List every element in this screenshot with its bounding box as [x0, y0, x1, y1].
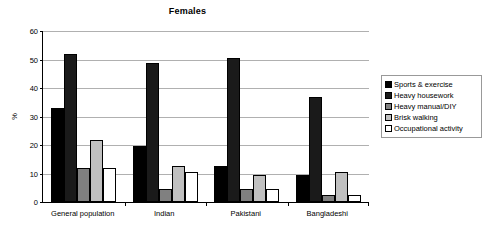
- legend-swatch-icon: [385, 103, 392, 110]
- bar: [227, 58, 240, 202]
- x-axis-tick: [125, 202, 126, 206]
- bar-group: [206, 31, 288, 202]
- bar: [185, 172, 198, 202]
- bar: [51, 108, 64, 202]
- bar: [309, 97, 322, 202]
- bar: [266, 189, 279, 202]
- y-axis-tick-label: 60: [30, 27, 38, 36]
- legend-item-label: Brisk walking: [394, 113, 438, 122]
- plot-area: 6050403020100: [42, 31, 369, 203]
- bar: [103, 168, 116, 202]
- bar: [240, 189, 253, 202]
- bar: [172, 166, 185, 202]
- legend-swatch-icon: [385, 114, 392, 121]
- x-axis-label: Pakistani: [231, 209, 261, 218]
- x-axis-label: Bangladeshi: [307, 209, 348, 218]
- bar: [348, 195, 361, 202]
- y-axis-tick-label: 10: [30, 169, 38, 178]
- x-axis-label: Indian: [154, 209, 174, 218]
- bar: [90, 140, 103, 202]
- page-title: Females: [0, 6, 375, 16]
- x-axis-tick: [288, 202, 289, 206]
- y-axis-tick: [40, 202, 43, 203]
- bar: [146, 63, 159, 202]
- y-axis-tick-label: 20: [30, 141, 38, 150]
- bar-group: [43, 31, 125, 202]
- x-axis-tick: [206, 202, 207, 206]
- y-axis-tick-label: 50: [30, 55, 38, 64]
- legend-item-label: Heavy manual/DIY: [394, 102, 457, 111]
- legend-item-label: Heavy housework: [394, 91, 454, 100]
- legend-item[interactable]: Brisk walking: [385, 112, 479, 123]
- legend-item[interactable]: Heavy manual/DIY: [385, 101, 479, 112]
- x-axis-label: General population: [51, 209, 114, 218]
- bar-group: [125, 31, 207, 202]
- bar: [253, 175, 266, 202]
- legend-item[interactable]: Occupational activity: [385, 123, 479, 134]
- x-axis-tick: [368, 202, 369, 206]
- legend-item[interactable]: Heavy housework: [385, 90, 479, 101]
- y-axis-tick-label: 0: [34, 198, 38, 207]
- bar-group: [288, 31, 370, 202]
- legend-item[interactable]: Sports & exercise: [385, 79, 479, 90]
- bar: [322, 195, 335, 202]
- legend-item-label: Occupational activity: [394, 124, 463, 133]
- bar: [64, 54, 77, 202]
- y-axis-tick-label: 30: [30, 112, 38, 121]
- bar: [214, 166, 227, 202]
- bar: [159, 189, 172, 202]
- legend-item-label: Sports & exercise: [394, 80, 453, 89]
- y-axis-title: %: [10, 113, 19, 120]
- bar: [296, 175, 309, 202]
- bar: [335, 172, 348, 202]
- legend: Sports & exerciseHeavy houseworkHeavy ma…: [381, 75, 482, 138]
- y-axis-tick-label: 40: [30, 84, 38, 93]
- legend-swatch-icon: [385, 125, 392, 132]
- bar: [133, 146, 146, 202]
- legend-swatch-icon: [385, 92, 392, 99]
- bar: [77, 168, 90, 202]
- legend-swatch-icon: [385, 81, 392, 88]
